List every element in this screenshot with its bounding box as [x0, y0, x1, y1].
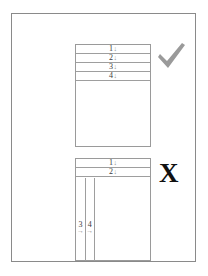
- row-number: 2: [109, 167, 113, 176]
- row-stack-good: 1↓ 2↓ 3↓ 4↓: [76, 45, 150, 81]
- row-label: 2↓: [109, 54, 117, 62]
- checkmark-icon: [155, 41, 187, 71]
- column-label: 3→: [77, 221, 84, 234]
- column-stack-bad: 3→ 4→: [76, 178, 150, 261]
- arrow-down-icon: ↓: [114, 54, 118, 62]
- x-mark-icon: X: [159, 160, 179, 187]
- arrow-down-icon: ↓: [114, 159, 118, 167]
- diagram-good-example: 1↓ 2↓ 3↓ 4↓: [75, 44, 151, 147]
- arrow-down-icon: ↓: [114, 168, 118, 176]
- arrow-right-icon: →: [77, 229, 84, 234]
- row-number: 2: [109, 53, 113, 62]
- arrow-right-icon: →: [86, 229, 93, 234]
- row-stack-bad: 1↓ 2↓: [76, 159, 150, 177]
- table-row: 4↓: [76, 72, 150, 81]
- page-frame: 1↓ 2↓ 3↓ 4↓ 1↓: [11, 13, 196, 262]
- table-column-empty: [95, 178, 150, 261]
- table-row: 2↓: [76, 168, 150, 177]
- arrow-down-icon: ↓: [114, 72, 118, 80]
- table-column: 3→: [76, 178, 86, 261]
- diagram-bad-example: 1↓ 2↓ 3→ 4→: [75, 158, 151, 261]
- row-label: 1↓: [109, 45, 117, 53]
- row-label: 2↓: [109, 168, 117, 176]
- row-label: 4↓: [109, 72, 117, 80]
- row-number: 4: [109, 71, 113, 80]
- row-number: 1: [109, 158, 113, 167]
- row-number: 3: [109, 62, 113, 71]
- page-canvas: 1↓ 2↓ 3↓ 4↓ 1↓: [0, 0, 208, 276]
- row-label: 3↓: [109, 63, 117, 71]
- arrow-down-icon: ↓: [114, 63, 118, 71]
- table-column: 4→: [86, 178, 95, 261]
- column-label: 4→: [86, 221, 93, 234]
- row-number: 1: [109, 44, 113, 53]
- arrow-down-icon: ↓: [114, 45, 118, 53]
- row-label: 1↓: [109, 159, 117, 167]
